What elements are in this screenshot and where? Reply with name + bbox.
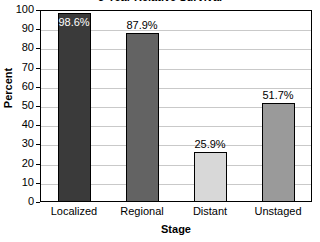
y-tick-label: 50 <box>0 100 34 111</box>
y-tick-label: 60 <box>0 81 34 92</box>
x-tick-label: Unstaged <box>238 205 318 217</box>
y-tick-label: 10 <box>0 177 34 188</box>
y-tick-label: 20 <box>0 158 34 169</box>
y-tick-label: 80 <box>0 42 34 53</box>
x-axis-title: Stage <box>40 223 312 235</box>
y-tick-label: 40 <box>0 119 34 130</box>
x-axis-ticks: LocalizedRegionalDistantUnstaged <box>40 205 312 221</box>
y-tick-label: 0 <box>0 196 34 207</box>
bar <box>126 33 159 202</box>
bar <box>194 152 227 202</box>
bar-value-label: 87.9% <box>112 20 172 31</box>
bars-layer: 98.6%87.9%25.9%51.7% <box>40 10 312 202</box>
bar <box>58 13 91 202</box>
y-tick-label: 30 <box>0 138 34 149</box>
y-tick-mark <box>36 202 40 203</box>
bar <box>262 103 295 202</box>
y-tick-label: 100 <box>0 4 34 15</box>
y-tick-label: 90 <box>0 23 34 34</box>
bar-value-label: 25.9% <box>180 139 240 150</box>
bar-chart: 5-Year Relative Survival Percent 0102030… <box>0 0 320 242</box>
bar-value-label: 98.6% <box>44 17 104 28</box>
bar-value-label: 51.7% <box>248 90 308 101</box>
y-tick-label: 70 <box>0 62 34 73</box>
